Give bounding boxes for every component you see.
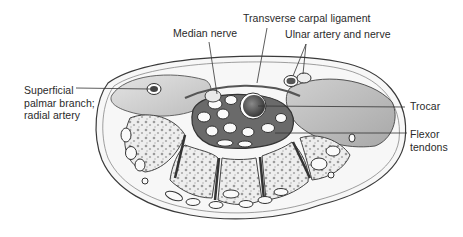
label-ulnar-artery-and-nerve: Ulnar artery and nerve (285, 28, 391, 41)
label-flexor-tendons: Flexor tendons (410, 128, 448, 153)
wrist-cross-section-figure: Median nerve Transverse carpal ligament … (0, 0, 463, 237)
label-transverse-carpal-ligament: Transverse carpal ligament (243, 12, 371, 25)
label-superficial-palmar-branch: Superficial palmar branch; radial artery (24, 84, 95, 122)
label-trocar: Trocar (410, 100, 440, 113)
median-nerve-shape (205, 90, 221, 102)
label-median-nerve: Median nerve (173, 27, 237, 40)
